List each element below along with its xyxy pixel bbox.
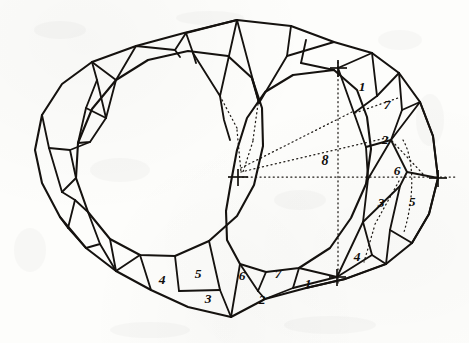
facet-label-right-4: 4 xyxy=(353,249,361,264)
facet-label-right-7: 7 xyxy=(384,97,392,112)
facet-number-labels-layer: 1 7 2 6 3 5 4 8 4 5 3 6 2 7 1 xyxy=(0,0,469,343)
facet-label-right-2: 2 xyxy=(381,132,389,147)
facet-label-bottom-6: 6 xyxy=(239,268,246,283)
facet-label-right-3: 3 xyxy=(377,195,385,210)
facet-label-bottom-3: 3 xyxy=(204,291,212,306)
facet-label-bottom-7: 7 xyxy=(275,266,283,281)
facet-label-bottom-5: 5 xyxy=(195,266,202,281)
facet-label-right-6: 6 xyxy=(394,163,401,178)
facet-label-right-5: 5 xyxy=(409,194,416,209)
facet-label-bottom-4: 4 xyxy=(158,272,166,287)
facet-label-right-1: 1 xyxy=(359,79,366,94)
facet-label-bottom-2: 2 xyxy=(258,292,266,307)
facet-label-center-8: 8 xyxy=(322,153,329,168)
facet-label-bottom-1: 1 xyxy=(305,276,312,291)
